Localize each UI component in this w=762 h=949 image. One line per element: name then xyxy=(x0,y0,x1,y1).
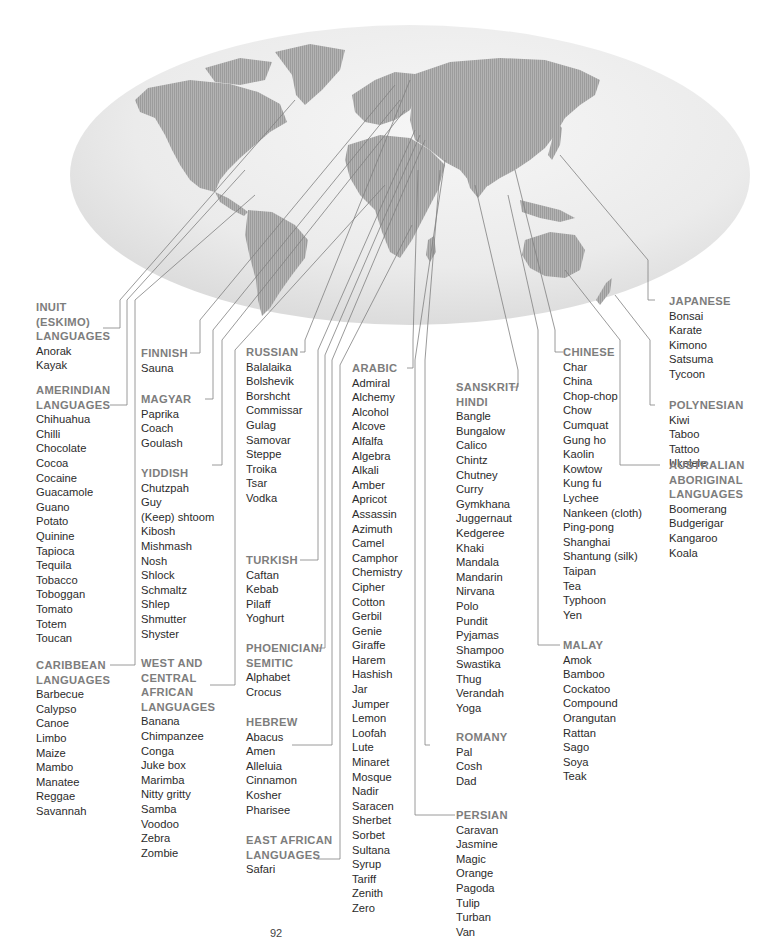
word: Barbecue xyxy=(36,687,110,702)
word: Chihuahua xyxy=(36,412,110,427)
word: Cipher xyxy=(352,580,402,595)
word: Nosh xyxy=(141,554,214,569)
word: Voodoo xyxy=(141,817,215,832)
heading: AMERINDIAN xyxy=(36,383,110,398)
word: Ping-pong xyxy=(563,520,642,535)
word: Zebra xyxy=(141,831,215,846)
word: Caravan xyxy=(456,823,508,838)
heading: CARIBBEAN xyxy=(36,658,110,673)
word: Bangle xyxy=(456,409,519,424)
heading: YIDDISH xyxy=(141,466,214,481)
group-arabic: ARABIC Admiral Alchemy Alcohol Alcove Al… xyxy=(352,361,402,916)
word: Cumquat xyxy=(563,418,642,433)
word: Guacamole xyxy=(36,485,110,500)
group-amerindian: AMERINDIAN LANGUAGES Chihuahua Chilli Ch… xyxy=(36,383,110,646)
heading: SEMITIC xyxy=(246,656,323,671)
word: Kimono xyxy=(669,338,731,353)
word: Jumper xyxy=(352,697,402,712)
word: Caftan xyxy=(246,568,298,583)
word: Shampoo xyxy=(456,643,519,658)
word: Tequila xyxy=(36,558,110,573)
word: Zero xyxy=(352,901,402,916)
word: Yoghurt xyxy=(246,611,298,626)
word: Khaki xyxy=(456,541,519,556)
word: Boomerang xyxy=(669,502,745,517)
word: Apricot xyxy=(352,492,402,507)
word: Troika xyxy=(246,462,303,477)
word: Camel xyxy=(352,536,402,551)
word: Toucan xyxy=(36,631,110,646)
word: Sauna xyxy=(141,361,188,376)
heading: HINDI xyxy=(456,395,519,410)
word: Shyster xyxy=(141,627,214,642)
word: Kaolin xyxy=(563,447,642,462)
word: Orangutan xyxy=(563,711,618,726)
word: Mandarin xyxy=(456,570,519,585)
heading: CHINESE xyxy=(563,345,642,360)
word: Admiral xyxy=(352,376,402,391)
word: Cockatoo xyxy=(563,682,618,697)
word: Satsuma xyxy=(669,352,731,367)
word: Tomato xyxy=(36,602,110,617)
word: Totem xyxy=(36,617,110,632)
word: Taboo xyxy=(669,427,744,442)
heading: LANGUAGES xyxy=(669,487,745,502)
word: Kayak xyxy=(36,358,110,373)
word: Van xyxy=(456,925,508,940)
word: Shantung (silk) xyxy=(563,549,642,564)
word: Mishmash xyxy=(141,539,214,554)
word: Toboggan xyxy=(36,587,110,602)
group-turkish: TURKISH Caftan Kebab Pilaff Yoghurt xyxy=(246,553,298,626)
heading: INUIT xyxy=(36,300,110,315)
group-west-central-african: WEST AND CENTRAL AFRICAN LANGUAGES Banan… xyxy=(141,656,215,860)
word: Sorbet xyxy=(352,828,402,843)
word: Nirvana xyxy=(456,584,519,599)
word: Yen xyxy=(563,608,642,623)
word: Quinine xyxy=(36,529,110,544)
word: Sago xyxy=(563,740,618,755)
word: Jar xyxy=(352,682,402,697)
word: Harem xyxy=(352,653,402,668)
group-russian: RUSSIAN Balalaika Bolshevik Borshcht Com… xyxy=(246,345,303,506)
word: Azimuth xyxy=(352,522,402,537)
word: Cocaine xyxy=(36,471,110,486)
word: Giraffe xyxy=(352,638,402,653)
heading: CENTRAL xyxy=(141,671,215,686)
word: Mandala xyxy=(456,555,519,570)
word: Rattan xyxy=(563,726,618,741)
heading: LANGUAGES xyxy=(246,848,332,863)
heading: LANGUAGES xyxy=(36,329,110,344)
word: Maize xyxy=(36,746,110,761)
word: Samba xyxy=(141,802,215,817)
word: Tariff xyxy=(352,872,402,887)
page-number: 92 xyxy=(270,927,282,939)
word: Schmaltz xyxy=(141,583,214,598)
word: Juke box xyxy=(141,758,215,773)
word: Reggae xyxy=(36,789,110,804)
word: Shlock xyxy=(141,568,214,583)
word: Bonsai xyxy=(669,309,731,324)
word: Juggernaut xyxy=(456,511,519,526)
word: Algebra xyxy=(352,449,402,464)
word: Kung fu xyxy=(563,476,642,491)
word: Swastika xyxy=(456,657,519,672)
word: Tapioca xyxy=(36,544,110,559)
word: Alkali xyxy=(352,463,402,478)
word: Compound xyxy=(563,696,618,711)
word: Chimpanzee xyxy=(141,729,215,744)
word: Nankeen (cloth) xyxy=(563,506,642,521)
word: Polo xyxy=(456,599,519,614)
word: Orange xyxy=(456,866,508,881)
word: Lute xyxy=(352,740,402,755)
word: Loofah xyxy=(352,726,402,741)
word: Alchemy xyxy=(352,390,402,405)
group-romany: ROMANY Pal Cosh Dad xyxy=(456,730,508,788)
word: Kedgeree xyxy=(456,526,519,541)
word: Chemistry xyxy=(352,565,402,580)
word: Sultana xyxy=(352,843,402,858)
word: Yoga xyxy=(456,701,519,716)
heading: EAST AFRICAN xyxy=(246,833,332,848)
heading: TURKISH xyxy=(246,553,298,568)
group-persian: PERSIAN Caravan Jasmine Magic Orange Pag… xyxy=(456,808,508,939)
word: Mosque xyxy=(352,770,402,785)
